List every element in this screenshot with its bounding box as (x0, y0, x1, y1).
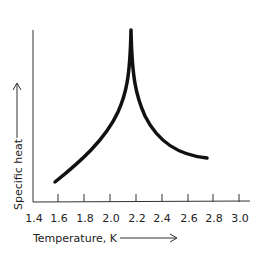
x-axis (33, 201, 250, 202)
specific-heat-chart: 1.4 1.6 1.8 2.0 2.2 2.4 2.6 2.8 3.0 Temp… (0, 0, 263, 255)
tick-label: 2.0 (102, 212, 120, 225)
tick-label: 1.8 (76, 212, 94, 225)
tick-label: 2.8 (205, 212, 223, 225)
x-tick-labels: 1.4 1.6 1.8 2.0 2.2 2.4 2.6 2.8 3.0 (25, 212, 249, 225)
tick-label: 2.4 (153, 212, 171, 225)
y-axis-title: Specific heat (12, 138, 25, 210)
tick-label: 1.4 (25, 212, 43, 225)
specific-heat-curve (55, 30, 207, 182)
tick-label: 3.0 (231, 212, 249, 225)
x-axis-arrow-icon (120, 234, 177, 242)
x-axis-title: Temperature, K (32, 232, 118, 245)
y-axis-arrow-icon (13, 83, 21, 138)
tick-label: 1.6 (50, 212, 68, 225)
tick-label: 2.6 (180, 212, 198, 225)
tick-label: 2.2 (128, 212, 146, 225)
